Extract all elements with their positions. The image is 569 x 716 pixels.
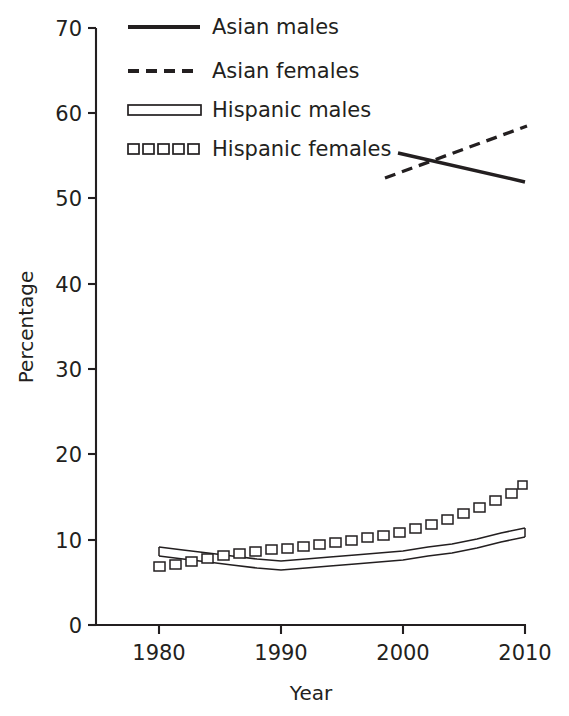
series-marker-square — [378, 531, 389, 540]
y-tick-labels: 70 60 50 40 30 20 10 0 — [55, 17, 82, 638]
series-marker-square — [282, 544, 293, 553]
y-tick-label: 70 — [55, 17, 82, 41]
series-marker-square — [346, 536, 357, 545]
y-tick-label: 40 — [55, 273, 82, 297]
x-tick-marks — [159, 625, 525, 634]
legend-item-label: Hispanic males — [212, 98, 371, 122]
legend-item-label: Asian females — [212, 59, 359, 83]
y-tick-label: 10 — [55, 529, 82, 553]
series-hispanic-females — [154, 481, 527, 571]
series-hispanic-males — [159, 528, 525, 570]
series-marker-square — [234, 549, 245, 558]
series-marker-square — [474, 503, 485, 512]
chart-series-group — [154, 126, 527, 571]
series-marker-square — [250, 547, 261, 556]
line-chart-canvas: 70 60 50 40 30 20 10 0 1980 1990 2000 — [0, 0, 569, 716]
y-tick-label: 20 — [55, 443, 82, 467]
x-tick-labels: 1980 1990 2000 2010 — [132, 641, 551, 665]
series-marker-square — [518, 481, 527, 489]
legend-item-label: Asian males — [212, 15, 339, 39]
x-tick-label: 1990 — [254, 641, 307, 665]
y-tick-label: 30 — [55, 358, 82, 382]
series-marker-square — [442, 515, 453, 524]
y-tick-label: 50 — [55, 187, 82, 211]
series-marker-square — [506, 489, 517, 498]
series-marker-square — [458, 509, 469, 518]
x-axis-title: Year — [289, 681, 333, 705]
series-marker-square — [490, 496, 501, 505]
legend-item-label: Hispanic females — [212, 137, 391, 161]
legend-item-asian-females[interactable]: Asian females — [128, 59, 359, 83]
series-marker-square — [362, 533, 373, 542]
series-marker-square — [410, 524, 421, 533]
series-marker-square — [314, 540, 325, 549]
series-marker-square — [202, 554, 213, 563]
series-marker-square — [266, 545, 277, 554]
y-axis-title: Percentage — [14, 271, 38, 384]
series-marker-square — [218, 551, 229, 560]
y-tick-label: 60 — [55, 102, 82, 126]
chart-figure: 70 60 50 40 30 20 10 0 1980 1990 2000 — [0, 0, 569, 716]
series-marker-square — [154, 562, 165, 571]
series-hispanic-males-upper — [159, 528, 525, 561]
series-marker-square — [170, 560, 181, 569]
series-asian-females — [385, 126, 527, 178]
series-marker-square — [394, 528, 405, 537]
y-tick-marks — [88, 28, 96, 625]
open-squares-icon — [128, 144, 199, 154]
x-tick-label: 2010 — [498, 641, 551, 665]
series-marker-square — [330, 538, 341, 547]
legend-item-asian-males[interactable]: Asian males — [128, 15, 339, 39]
chart-legend: Asian males Asian females Hispanic males — [128, 15, 391, 161]
y-tick-label: 0 — [69, 614, 82, 638]
series-marker-square — [426, 520, 437, 529]
legend-item-hispanic-males[interactable]: Hispanic males — [128, 98, 371, 122]
series-asian-males — [398, 153, 525, 182]
series-marker-square — [298, 542, 309, 551]
x-tick-label: 1980 — [132, 641, 185, 665]
legend-item-hispanic-females[interactable]: Hispanic females — [128, 137, 391, 161]
x-tick-label: 2000 — [376, 641, 429, 665]
line-hollow-icon — [128, 105, 201, 115]
series-marker-square — [186, 557, 197, 566]
